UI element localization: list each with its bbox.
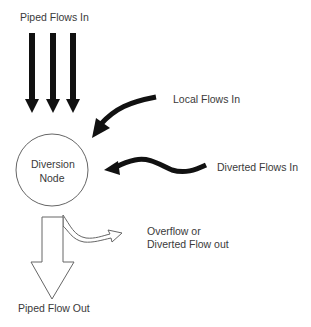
arrow-down-icon (66, 33, 80, 113)
local-flows-in-label: Local Flows In (173, 93, 240, 106)
piped-flows-in-label: Piped Flows In (20, 11, 89, 24)
node-label-line1: Diversion (31, 158, 73, 171)
arrow-down-icon (46, 33, 60, 113)
node-label-line2: Node (31, 172, 73, 185)
arrow-down-icon (25, 33, 39, 113)
diverted-in-arrow-icon (104, 159, 206, 175)
piped-flow-out-label: Piped Flow Out (18, 302, 90, 315)
overflow-arrow-icon (63, 215, 122, 242)
piped-in-arrows (25, 33, 80, 113)
diverted-flows-in-label: Diverted Flows In (217, 161, 298, 174)
overflow-label-line1: Overflow or (147, 225, 201, 238)
local-in-arrow-icon (92, 97, 156, 138)
overflow-label-line2: Diverted Flow out (147, 238, 229, 251)
